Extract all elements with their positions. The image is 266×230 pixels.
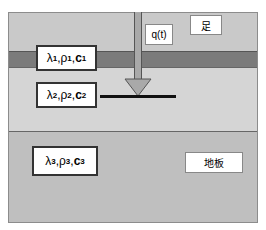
layer1-c-index: 1: [82, 54, 86, 63]
diagram-frame: [8, 12, 258, 223]
heat-flux-arrow-shaft: [134, 12, 142, 80]
sensor-line: [100, 95, 176, 98]
layer2-c-index: 2: [82, 91, 86, 100]
layer2-c: c: [75, 88, 82, 102]
floor-label: 地板: [185, 152, 243, 173]
layer2-properties-box: λ2,ρ2,c2: [36, 82, 97, 108]
bottom-layer: [9, 131, 257, 223]
layer1-properties-box: λ1,ρ1,c1: [36, 45, 97, 71]
layer3-c: c: [74, 154, 81, 168]
foot-label: 足: [190, 15, 222, 35]
layer3-properties-box: λ3,ρ3,c3: [32, 146, 98, 176]
layer1-c: c: [75, 51, 82, 65]
layer3-rho: ρ: [59, 154, 66, 168]
heat-flux-label: q(t): [145, 24, 173, 45]
layer2-rho: ρ: [61, 88, 68, 102]
layer3-c-index: 3: [80, 157, 84, 166]
layer1-rho: ρ: [61, 51, 68, 65]
